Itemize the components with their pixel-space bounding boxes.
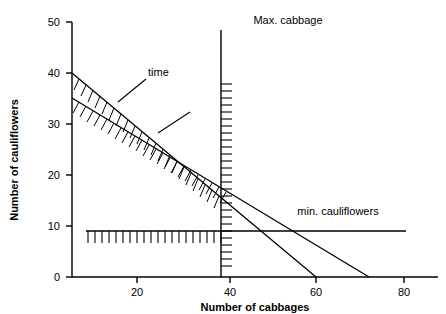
min-cauliflowers-hatching [88, 231, 221, 243]
time-leader-line-lower [158, 112, 190, 133]
min-cauliflowers-constraint [86, 231, 406, 243]
x-ticks-group [137, 277, 404, 283]
chart-container: 0 10 20 30 40 50 20 40 60 80 Number of c… [0, 0, 446, 314]
x-tick-label-20: 20 [131, 286, 143, 298]
time-constraint-upper [72, 73, 316, 277]
time-constraint-lower-hatching [73, 102, 226, 203]
x-tick-label-40: 40 [224, 286, 236, 298]
y-tick-label-50: 50 [48, 16, 60, 28]
max-cabbage-hatching [221, 84, 232, 266]
x-tick-label-60: 60 [310, 286, 322, 298]
y-tick-label-10: 10 [48, 220, 60, 232]
y-tick-label-40: 40 [48, 67, 60, 79]
time-label: time [148, 66, 169, 78]
y-tick-label-20: 20 [48, 169, 60, 181]
min-cauliflowers-label: min. cauliflowers [297, 205, 379, 217]
max-cabbage-constraint [221, 30, 232, 277]
axes-group [72, 22, 438, 277]
y-tick-label-0: 0 [54, 271, 60, 283]
time-constraint-upper-line [72, 73, 316, 277]
x-tick-label-80: 80 [398, 286, 410, 298]
constraint-plot: 0 10 20 30 40 50 20 40 60 80 Number of c… [0, 0, 446, 314]
max-cabbage-label: Max. cabbage [253, 14, 322, 26]
time-leader-line-upper [118, 79, 146, 102]
y-ticks-group [66, 22, 72, 277]
x-tick-labels-group: 20 40 60 80 [131, 286, 410, 298]
x-axis-title: Number of cabbages [201, 301, 310, 313]
y-axis-title: Number of cauliflowers [8, 99, 20, 221]
y-tick-labels-group: 0 10 20 30 40 50 [48, 16, 60, 283]
y-tick-label-30: 30 [48, 118, 60, 130]
